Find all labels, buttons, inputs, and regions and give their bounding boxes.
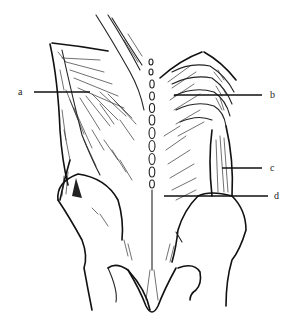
- left-muscle-a: [50, 15, 144, 185]
- anatomy-diagram: a b c d: [0, 0, 295, 329]
- label-a: a: [18, 86, 23, 97]
- left-dark-wedge: [60, 160, 82, 200]
- label-c: c: [270, 162, 275, 173]
- label-d: d: [274, 190, 279, 201]
- label-c-group: c: [222, 162, 275, 173]
- label-b: b: [270, 89, 275, 100]
- label-a-group: a: [18, 86, 90, 97]
- right-muscle-b: [160, 52, 236, 200]
- spine: [146, 59, 158, 300]
- label-d-group: d: [164, 190, 279, 201]
- right-muscle-c: [210, 126, 232, 196]
